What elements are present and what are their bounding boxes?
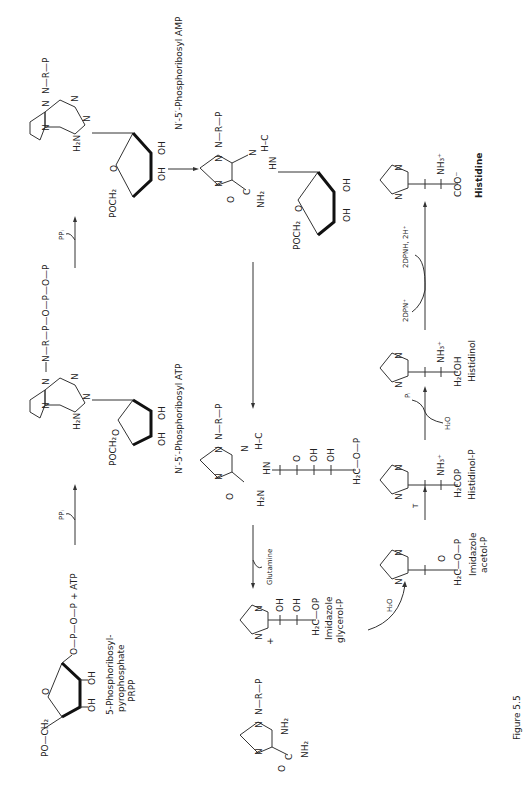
amine-label: H₂N: [72, 413, 82, 430]
arrow-prpp-to-atp: PPᵢ: [58, 484, 77, 545]
ring-n: N: [254, 633, 264, 640]
ring-n: N: [41, 402, 51, 409]
histidine-name: Histidine: [474, 153, 484, 198]
arrow-amp-to-intermediate: [168, 167, 199, 171]
hc-label: H–C: [254, 432, 264, 450]
atp-name: N′-5′-Phosphoribosyl ATP: [174, 363, 184, 474]
oxygen-label: O: [277, 765, 287, 772]
ring-n: N: [214, 180, 224, 187]
histidine-structure: N N NH₃⁺ COO⁻ Histidine: [380, 153, 484, 200]
ring-n: N: [394, 578, 404, 585]
acetol-p-name-line2: acetol-P: [479, 536, 489, 573]
h2c-op-label: H₂C—OP: [311, 597, 321, 636]
ring-n: N: [254, 748, 264, 755]
arrow-transamination: T: [412, 486, 427, 520]
ppi-label: PPᵢ: [58, 510, 66, 520]
glycerol-p-name-line2: glycerol-P: [335, 598, 345, 643]
arrow-dephosphorylation: H₂O Pᵢ: [404, 386, 452, 440]
nh2-label: NH₂: [300, 741, 310, 759]
ring-n: N: [394, 493, 404, 500]
ring-n: N: [70, 95, 80, 102]
oh-label: OH: [292, 598, 302, 612]
figure-caption: Figure 5.5: [512, 695, 522, 740]
pyrophosphate-chain-label: O—P—O—P + ATP: [69, 573, 79, 655]
glutamine-label: Glutamine: [266, 549, 274, 585]
prpp-abbrev: PRPP: [127, 679, 137, 702]
phosphoribosyl-chain-label: N—R—P: [254, 678, 264, 715]
histidine-biosynthesis-diagram: O PO—CH₂ OH OH O—P—O—P + ATP 5-Phosphori…: [0, 0, 525, 787]
h2o-label: H₂O: [386, 598, 394, 612]
oxygen-label: O: [225, 493, 235, 500]
ring-n: N: [394, 352, 404, 359]
oxygen-label: O: [437, 555, 447, 562]
imidazole-acetol-p-structure: N N O H₂C—O—P Imidazole acetol-P: [380, 532, 489, 586]
po-ch2-label: PO—CH₂: [40, 718, 50, 757]
nh3-label: NH₃⁺: [436, 153, 446, 175]
phosphoribosyl-chain-label: N—R—P: [41, 57, 51, 94]
histidinol-p-name: Histidinol-P: [467, 449, 477, 500]
h2cop-label: H₂COP: [453, 468, 463, 498]
ring-oxygen: O: [111, 429, 121, 436]
oh-label: OH: [157, 141, 167, 155]
plus-sign: +: [265, 637, 275, 645]
amine-label: H₂N: [72, 135, 82, 152]
oh-label: OH: [157, 406, 167, 420]
ring-oxygen: O: [109, 165, 119, 172]
oh-label: OH: [309, 448, 319, 462]
arrow-glutamine: Glutamine: [251, 525, 274, 589]
phosphoribosyl-atp-structure: N N N N N—R—P—O—P—O—P H₂N O POCH₂ OH OH …: [30, 264, 184, 474]
oh-label: OH: [157, 432, 167, 446]
ring-n: N: [254, 605, 264, 612]
acetol-p-name-line1: Imidazole: [468, 532, 478, 576]
dpn-label: 2DPN⁺: [402, 299, 410, 322]
oh-label: OH: [342, 208, 352, 222]
arrow-dehydration: H₂O: [368, 581, 407, 630]
glycerol-p-name-line1: Imidazole: [324, 596, 334, 640]
ring-n: N: [41, 378, 51, 385]
arrow-atp-to-amp: PPᵢ: [58, 216, 77, 268]
h2n-label: H₂N: [256, 490, 266, 507]
amp-name: N′-5′-Phosphoribosyl AMP: [174, 16, 184, 130]
oxygen-label: O: [292, 455, 302, 462]
h2o-label: H₂O: [444, 416, 452, 430]
ring-n: N: [82, 115, 92, 122]
oh-label: OH: [87, 698, 97, 712]
ring-n: N: [82, 393, 92, 400]
ring-n: N: [394, 464, 404, 471]
oh-label: OH: [342, 178, 352, 192]
ppi-label: PPᵢ: [58, 230, 66, 240]
aicar-structure: N N N—R—P NH₂ C O NH₂: [240, 678, 310, 772]
ring-n: N: [248, 149, 258, 156]
ring-n: N: [394, 193, 404, 200]
ring-n: N: [70, 373, 80, 380]
intermediate-top-structure: N N N—R—P N H–C HN C O NH₂ O POCH₂ OH OH: [200, 111, 352, 250]
nh3-label: NH₃⁺: [436, 341, 446, 363]
h2c-o-p-label: H₂C—O—P: [352, 437, 362, 485]
ring-n: N: [214, 155, 224, 162]
phosphoribosyl-amp-structure: N N N N N—R—P H₂N O POCH₂ OH OH N′-5′-Ph…: [30, 16, 184, 218]
carbon-label: C: [242, 189, 252, 195]
intermediate-mid-structure: N N N—R—P N H–C HN O H₂N O OH OH H₂C—O—P: [200, 403, 362, 507]
carbon-label: C: [284, 754, 294, 760]
hn-label: HN: [268, 157, 278, 171]
ring-n: N: [41, 124, 51, 131]
h2c-o-p-label: H₂C—O—P: [453, 538, 463, 586]
nh2-label: NH₂: [280, 718, 290, 736]
ring-n: N: [214, 446, 224, 453]
hc-label: H–C: [260, 134, 270, 152]
phosphoribosyl-chain-label: N—R—P: [214, 111, 224, 148]
poch2-label: POCH₂: [108, 436, 118, 466]
h2coh-label: H₂COH: [453, 356, 463, 387]
oh-label: OH: [275, 598, 285, 612]
ring-n: N: [214, 473, 224, 480]
imidazole-glycerol-p-structure: N N OH OH H₂C—OP Imidazole glycerol-P: [240, 596, 345, 643]
nh2-label: NH₂: [256, 191, 266, 209]
poch2-label: POCH₂: [108, 188, 118, 218]
phosphoribosyl-chain-label: N—R—P: [214, 403, 224, 440]
prpp-name-line2: pyrophosphate: [116, 644, 126, 712]
pi-label: Pᵢ: [404, 393, 412, 398]
prpp-structure: O PO—CH₂ OH OH O—P—O—P + ATP 5-Phosphori…: [40, 573, 137, 757]
ring-n: N: [394, 164, 404, 171]
hn-label: HN: [262, 462, 272, 476]
histidinol-structure: N N NH₃⁺ H₂COH Histidinol: [380, 340, 477, 388]
